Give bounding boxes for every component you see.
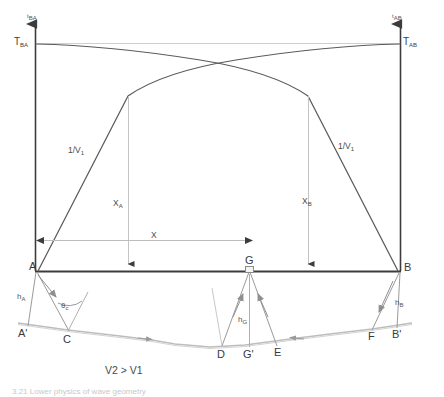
offset-label-x: X — [151, 231, 157, 240]
g-source-marker — [246, 267, 254, 273]
ray-paths — [28, 272, 400, 347]
offset-label-xa: XA — [113, 199, 123, 208]
ray-g-to-d — [222, 272, 249, 346]
ray-g-upgoing-arrow-left — [233, 294, 243, 317]
ground-surface — [18, 323, 412, 349]
point-label-d: D — [217, 349, 225, 360]
offset-label-xb: XB — [302, 197, 312, 206]
point-label-g: G — [245, 255, 254, 266]
left-time-axis-label: tBA — [27, 13, 37, 19]
right-time-axis-label: tAB — [392, 13, 402, 19]
slope-label-right: 1/V1 — [338, 142, 354, 151]
ray-a-downgoing-arrow — [38, 275, 56, 297]
ray-b-downgoing-arrow — [379, 281, 393, 312]
point-label-g-prime: G' — [243, 349, 254, 360]
normal-line-d — [212, 288, 222, 346]
point-label-e: E — [274, 347, 281, 358]
figure-footer-caption: 3.21 Lower physics of wave geometry — [12, 388, 146, 396]
point-label-b-prime: B' — [392, 329, 401, 340]
point-label-b: B — [404, 262, 411, 273]
ray-g-upgoing-arrow-right — [258, 294, 268, 317]
ray-a-to-aprime — [28, 272, 36, 326]
point-label-c: C — [63, 334, 71, 345]
ground-line-upper — [18, 323, 412, 347]
velocity-condition-caption: V2 > V1 — [105, 365, 143, 376]
intercept-time-tab-label: TAB — [403, 37, 417, 47]
travel-time-curves — [36, 44, 400, 271]
ground-line-lower — [18, 325, 412, 349]
depth-label-hg: hG — [238, 316, 247, 324]
depth-label-hb: hB — [395, 299, 403, 307]
slope-label-left: 1/V1 — [68, 146, 84, 155]
intercept-time-tba-label: TBA — [14, 37, 28, 47]
ray-g-to-e — [250, 272, 277, 346]
curve-reverse-shot — [36, 44, 398, 271]
point-label-f: F — [368, 331, 375, 342]
curve-forward-shot — [38, 44, 400, 271]
critical-angle-label: θc — [61, 302, 68, 310]
point-label-a-prime: A' — [18, 328, 27, 339]
point-label-a: A — [29, 261, 36, 272]
depth-label-ha: hA — [17, 293, 25, 301]
angle-normal-line-c — [68, 292, 88, 331]
